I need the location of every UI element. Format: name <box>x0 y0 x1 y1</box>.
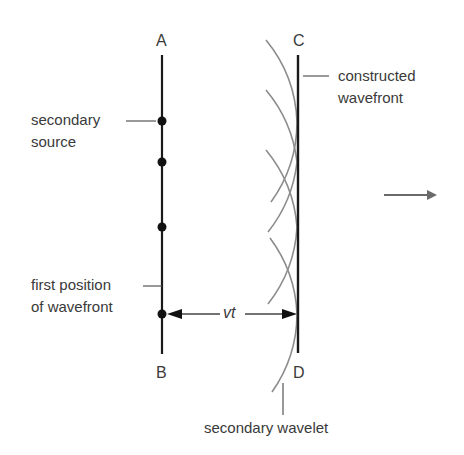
vt-label: vt <box>223 303 235 323</box>
first-position-label-line1: first position <box>31 275 111 295</box>
propagation-arrow-icon <box>384 190 437 200</box>
source-dot-3 <box>158 223 167 232</box>
constructed-wavefront-label-line2: wavefront <box>338 88 403 108</box>
secondary-source-label-line2: source <box>31 132 76 152</box>
wavelet-arc-2 <box>266 90 297 232</box>
point-label-a: A <box>156 32 167 50</box>
constructed-wavefront-label-line1: constructed <box>338 66 416 86</box>
secondary-wavelet-label: secondary wavelet <box>204 418 328 438</box>
arrowhead-right-icon <box>282 309 297 319</box>
arrowhead-left-icon <box>167 309 182 319</box>
source-dot-1 <box>158 117 167 126</box>
first-position-label-line2: of wavefront <box>31 297 113 317</box>
point-label-c: C <box>293 32 305 50</box>
source-dot-4 <box>158 310 167 319</box>
point-label-d: D <box>293 364 305 382</box>
source-dot-2 <box>158 158 167 167</box>
wavelet-arc-1 <box>266 40 297 202</box>
secondary-wavelets <box>266 40 297 392</box>
point-label-b: B <box>156 364 167 382</box>
secondary-source-label-line1: secondary <box>31 110 100 130</box>
